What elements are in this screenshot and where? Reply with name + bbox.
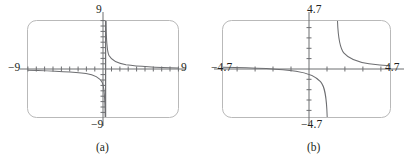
axis-label-a-bottom: −9	[91, 119, 103, 131]
axis-label-a-right: 9	[181, 62, 187, 74]
graph-panel-a: 9 −9 9 −9 (a)	[0, 0, 206, 163]
panel-caption-a: (a)	[96, 142, 109, 154]
axis-label-a-top: 9	[96, 4, 102, 16]
axis-label-b-bottom: −4.7	[301, 119, 322, 131]
graph-panel-b: 4.7 −4.7 4.7 −4.7 (b)	[206, 0, 412, 163]
graph-b-plot	[206, 0, 412, 163]
figure-two-viewing-windows: 9 −9 9 −9 (a)	[0, 0, 412, 163]
axis-label-b-left: −4.7	[211, 62, 232, 74]
panel-caption-b: (b)	[307, 142, 320, 154]
axis-label-a-left: −9	[8, 62, 20, 74]
axis-label-b-top: 4.7	[307, 4, 322, 16]
axis-label-b-right: 4.7	[385, 62, 400, 74]
graph-a-plot	[0, 0, 206, 163]
